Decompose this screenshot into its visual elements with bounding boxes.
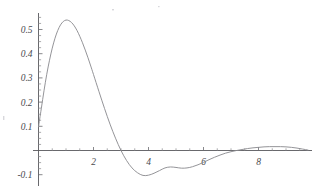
y-tick-label: 0.3 — [21, 73, 33, 83]
axes-group — [33, 13, 312, 186]
x-tick-label: 2 — [91, 157, 96, 167]
line-chart: 2468 -0.10.10.20.30.40.5 — [0, 0, 322, 195]
chart-canvas: 2468 -0.10.10.20.30.40.5 — [0, 0, 322, 195]
data-curve — [39, 20, 309, 176]
y-tick-label: 0.4 — [21, 49, 33, 59]
y-tick-label: 0.5 — [21, 25, 33, 35]
y-tick-label: -0.1 — [17, 170, 32, 180]
y-tick-label: 0.1 — [21, 122, 33, 132]
x-axis-tick-labels: 2468 — [91, 157, 261, 167]
y-axis-tick-labels: -0.10.10.20.30.40.5 — [17, 25, 32, 180]
x-tick-label: 4 — [146, 157, 151, 167]
y-tick-label: 0.2 — [21, 98, 33, 108]
x-tick-label: 8 — [256, 157, 261, 167]
